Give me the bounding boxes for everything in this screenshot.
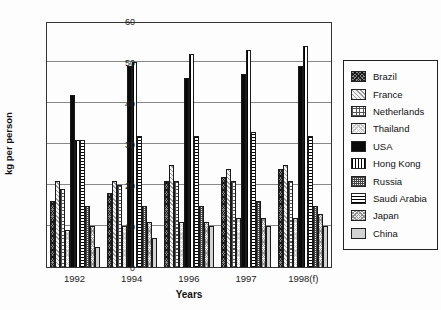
bar-china-1997 [266, 226, 271, 267]
bar-group-1997 [217, 23, 274, 267]
legend-swatch-japan [351, 210, 366, 221]
bar-chart-figure: kg per person 0102030405060 199219941996… [0, 0, 441, 310]
bar-group-1992 [47, 23, 104, 267]
legend-swatch-hong-kong [351, 158, 366, 169]
legend-label: Hong Kong [373, 158, 421, 169]
legend-swatch-brazil [351, 71, 366, 82]
y-tick-label-30: 30 [105, 141, 135, 150]
legend-item-usa: USA [351, 141, 435, 152]
legend-swatch-russia [351, 176, 366, 187]
x-tick-label-1997: 1997 [218, 273, 275, 284]
legend-swatch-netherlands [351, 106, 366, 117]
legend-item-russia: Russia [351, 176, 435, 187]
legend-item-france: France [351, 89, 435, 100]
x-tick-label-1998(f): 1998(f) [275, 273, 332, 284]
legend-label: Thailand [373, 123, 409, 134]
y-tick-label-20: 20 [105, 182, 135, 191]
legend-item-japan: Japan [351, 210, 435, 221]
legend-item-brazil: Brazil [351, 71, 435, 82]
legend-label: Brazil [373, 71, 397, 82]
legend-swatch-china [351, 228, 366, 239]
legend-label: Saudi Arabia [373, 193, 427, 204]
bar-china-1992 [95, 247, 100, 268]
x-tick-label-1994: 1994 [103, 273, 160, 284]
y-tick-label-0: 0 [105, 264, 135, 273]
y-tick-label-10: 10 [105, 223, 135, 232]
legend-label: Japan [373, 210, 399, 221]
legend-swatch-france [351, 89, 366, 100]
bar-china-1996 [209, 226, 214, 267]
legend-item-china: China [351, 228, 435, 239]
legend-item-saudi-arabia: Saudi Arabia [351, 193, 435, 204]
y-tick-label-60: 60 [105, 18, 135, 27]
plot-area [46, 22, 332, 268]
bar-group-1998(f) [274, 23, 331, 267]
legend-item-thailand: Thailand [351, 123, 435, 134]
x-tick-label-1992: 1992 [46, 273, 103, 284]
bar-china-1994 [152, 238, 157, 267]
bar-china-1998(f) [323, 226, 328, 267]
x-tick-label-1996: 1996 [160, 273, 217, 284]
legend-label: Russia [373, 176, 402, 187]
legend-item-hong-kong: Hong Kong [351, 158, 435, 169]
legend-label: Netherlands [373, 106, 424, 117]
legend-swatch-saudi-arabia [351, 193, 366, 204]
x-axis-title: Years [46, 289, 332, 300]
bar-group-1996 [161, 23, 218, 267]
legend-swatch-thailand [351, 123, 366, 134]
legend-item-netherlands: Netherlands [351, 106, 435, 117]
legend: BrazilFranceNetherlandsThailandUSAHong K… [343, 60, 438, 250]
legend-swatch-usa [351, 141, 366, 152]
y-axis-title: kg per person [3, 89, 14, 199]
y-tick-label-40: 40 [105, 100, 135, 109]
bar-groups-container [47, 23, 331, 267]
legend-label: USA [373, 141, 393, 152]
legend-label: France [373, 89, 403, 100]
legend-label: China [373, 228, 398, 239]
y-tick-label-50: 50 [105, 59, 135, 68]
